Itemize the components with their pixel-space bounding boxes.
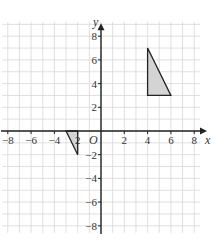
x-tick-label: 2 xyxy=(122,134,128,146)
x-axis-label: x xyxy=(204,133,211,147)
x-tick-label: 4 xyxy=(145,134,151,146)
y-tick-label: 8 xyxy=(92,30,98,42)
y-tick-label: 4 xyxy=(92,78,98,90)
y-axis-label: y xyxy=(92,15,99,29)
y-tick-label: −8 xyxy=(85,220,97,232)
origin-label: O xyxy=(89,133,98,147)
y-tick-label: 6 xyxy=(92,54,98,66)
coordinate-plane: −8−6−4224688642−2−4−6−8 x y O xyxy=(0,0,215,243)
x-tick-label: −6 xyxy=(25,134,37,146)
shapes xyxy=(66,48,171,155)
x-tick-label: −8 xyxy=(2,134,14,146)
y-tick-label: 2 xyxy=(92,101,98,113)
x-tick-label: 2 xyxy=(75,134,81,146)
y-tick-label: −4 xyxy=(85,172,97,184)
x-tick-label: −4 xyxy=(49,134,61,146)
x-tick-label: 6 xyxy=(168,134,174,146)
y-tick-label: −6 xyxy=(85,196,97,208)
y-tick-label: −2 xyxy=(85,149,97,161)
x-tick-label: 8 xyxy=(191,134,197,146)
